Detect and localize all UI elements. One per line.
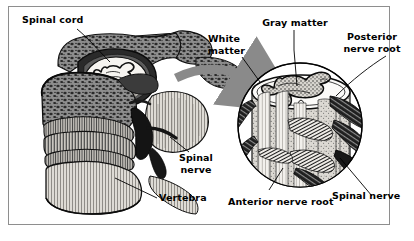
label-spinal-cord: Spinal cord [22,14,83,26]
label-vertebra: Vertebra [159,192,207,204]
label-spinal-nerve-left-line1: Spinal [179,152,213,163]
spinal-anatomy-figure: Spinal cord White matter Gray matter Pos… [0,0,414,241]
vertebral-body-3 [46,161,142,214]
label-anterior-nerve-root: Anterior nerve root [228,196,334,208]
label-posterior-nerve-root: Posterior nerve root [336,31,408,54]
label-white-matter: White matter [208,33,245,56]
label-spinal-nerve-left: Spinal nerve [172,152,220,175]
white-matter-column-mid [276,91,288,190]
label-white-matter-line1: White [208,33,240,44]
label-posterior-nerve-root-line2: nerve root [336,43,408,55]
vertebral-column-cutaway [42,31,245,214]
label-spinal-nerve-left-line2: nerve [172,164,220,176]
label-gray-matter: Gray matter [256,17,334,29]
label-white-matter-line2: matter [208,45,245,57]
spinal-nerve-left-distal [149,148,166,179]
white-matter-column-right [318,99,336,187]
magnified-spinal-cord-segment [230,63,369,198]
label-posterior-nerve-root-line1: Posterior [347,31,397,42]
label-spinal-nerve-right: Spinal nerve [332,190,400,202]
